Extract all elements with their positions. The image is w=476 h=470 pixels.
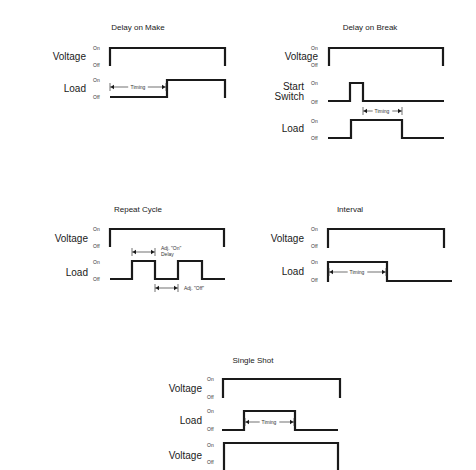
state-on-label: On — [311, 226, 318, 232]
dimension-label: Timing — [350, 269, 365, 275]
arrowhead-icon — [174, 286, 178, 290]
state-on-label: On — [207, 408, 214, 414]
dimension-label: Timing — [262, 419, 277, 425]
signal-voltage: VoltageOnOff — [169, 376, 340, 400]
dimension-label-line2: Delay — [161, 251, 174, 257]
state-off-label: Off — [311, 277, 318, 283]
arrowhead-icon — [111, 85, 115, 89]
arrowhead-icon — [330, 270, 334, 274]
signal-label: Load — [180, 415, 202, 426]
arrowhead-icon — [162, 85, 166, 89]
diagram-title: Interval — [337, 205, 363, 214]
state-off-label: Off — [311, 62, 318, 68]
state-on-label: On — [207, 376, 214, 382]
state-off-label: Off — [311, 243, 318, 249]
state-off-label: Off — [207, 426, 214, 432]
diagram-delay-on-make: Delay on MakeVoltageOnOffLoadOnOffTiming — [53, 23, 225, 100]
waveform-line — [328, 83, 444, 101]
signal-label: Load — [282, 266, 304, 277]
timing-dimension: Timing — [363, 107, 402, 115]
arrowhead-icon — [133, 250, 137, 254]
state-on-label: On — [311, 80, 318, 86]
state-off-label: Off — [311, 135, 318, 141]
signal-label: Voltage — [285, 51, 319, 62]
signal-label: Voltage — [53, 51, 87, 62]
state-on-label: On — [93, 45, 100, 51]
timing-dimension: Adj. "Off" — [155, 284, 204, 292]
diagram-interval: IntervalVoltageOnOffLoadOnOffTiming — [271, 205, 452, 283]
waveform-line — [328, 120, 444, 138]
state-on-label: On — [311, 45, 318, 51]
state-off-label: Off — [93, 94, 100, 100]
diagram-title: Single Shot — [233, 356, 275, 365]
state-off-label: Off — [93, 243, 100, 249]
signal-label: Load — [64, 83, 86, 94]
waveform-line — [224, 443, 338, 470]
signal-label: Load — [66, 267, 88, 278]
signal-load: LoadOnOff — [282, 118, 444, 141]
arrowhead-icon — [364, 109, 368, 113]
timing-dimension: Timing — [110, 83, 166, 91]
state-on-label: On — [93, 226, 100, 232]
state-on-label: On — [207, 442, 214, 448]
signal-start-switch: StartSwitchOnOff — [275, 80, 444, 105]
waveform-line — [110, 80, 225, 98]
arrowhead-icon — [151, 250, 155, 254]
state-off-label: Off — [93, 62, 100, 68]
signal-voltage: VoltageOnOff — [55, 226, 224, 249]
diagram-repeat-cycle: Repeat CycleVoltageOnOffLoadOnOffAdj. "O… — [55, 205, 225, 292]
state-off-label: Off — [93, 276, 100, 282]
diagram-title: Delay on Make — [111, 23, 165, 32]
timing-dimension: Timing — [245, 418, 294, 426]
state-off-label: Off — [207, 394, 214, 400]
state-on-label: On — [311, 118, 318, 124]
waveform-line — [222, 411, 338, 430]
dimension-label: Timing — [131, 84, 146, 90]
state-off-label: Off — [311, 99, 318, 105]
signal-load: LoadOnOff — [282, 259, 452, 283]
signal-label: Voltage — [271, 233, 305, 244]
diagram-title: Repeat Cycle — [114, 205, 163, 214]
state-on-label: On — [93, 259, 100, 265]
signal-voltage: VoltageOnOff — [53, 45, 225, 68]
state-on-label: On — [93, 77, 100, 83]
signal-label: Voltage — [169, 450, 203, 461]
state-off-label: Off — [207, 459, 214, 465]
dimension-label: Adj. "Off" — [184, 285, 204, 291]
arrowhead-icon — [246, 420, 250, 424]
signal-label: Switch — [275, 91, 304, 102]
signal-voltage: VoltageOnOff — [169, 442, 338, 470]
signal-voltage: VoltageOnOff — [285, 45, 443, 68]
arrowhead-icon — [156, 286, 160, 290]
timing-dimension: Adj. "On"Delay — [132, 245, 181, 257]
timing-diagrams-canvas: Delay on MakeVoltageOnOffLoadOnOffTiming… — [0, 0, 476, 470]
waveform-line — [110, 261, 225, 279]
diagram-delay-on-break: Delay on BreakVoltageOnOffStartSwitchOnO… — [275, 23, 444, 141]
arrowhead-icon — [382, 270, 386, 274]
dimension-label: Timing — [375, 108, 390, 114]
waveform-line — [329, 48, 443, 66]
state-on-label: On — [311, 259, 318, 265]
signal-label: Load — [282, 123, 304, 134]
diagram-single-shot: Single ShotVoltageOnOffLoadOnOffVoltageO… — [169, 356, 340, 470]
diagram-title: Delay on Break — [343, 23, 399, 32]
signal-load: LoadOnOff — [180, 408, 338, 432]
waveform-line — [223, 379, 340, 398]
signal-label: Voltage — [55, 233, 89, 244]
waveform-line — [110, 48, 225, 66]
timing-dimension: Timing — [329, 268, 386, 276]
signal-load: LoadOnOff — [66, 259, 225, 282]
waveform-line — [328, 229, 444, 248]
arrowhead-icon — [290, 420, 294, 424]
signal-label: Voltage — [169, 383, 203, 394]
signal-voltage: VoltageOnOff — [271, 226, 444, 249]
arrowhead-icon — [398, 109, 402, 113]
